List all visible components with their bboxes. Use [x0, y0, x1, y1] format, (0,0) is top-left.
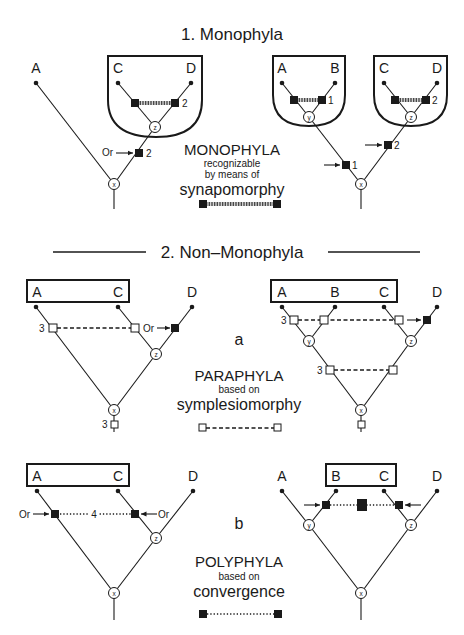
- taxon-label: B: [330, 284, 339, 300]
- taxon-label: A: [277, 284, 287, 300]
- svg-text:z: z: [409, 114, 412, 121]
- legend-title: PARAPHYLA: [195, 367, 284, 384]
- legend-term: synapomorphy: [180, 181, 285, 198]
- character-label: 2: [182, 98, 188, 109]
- taxon-label: D: [187, 284, 197, 300]
- svg-text:z: z: [154, 535, 157, 542]
- svg-text:z: z: [153, 124, 156, 131]
- svg-text:based on: based on: [218, 384, 259, 395]
- character-label: 1: [328, 95, 334, 106]
- subsection-letter: a: [235, 331, 244, 348]
- paraphyla-legend: a PARAPHYLA based on symplesiomorphy: [177, 331, 301, 431]
- taxon-label: D: [188, 468, 198, 484]
- polyphyla-right-tree: A B C D 5 y z x: [277, 464, 442, 620]
- taxon-label: C: [113, 284, 123, 300]
- character-marker: [342, 161, 350, 169]
- or-label: Or: [102, 147, 114, 158]
- subsection-letter: b: [235, 515, 244, 532]
- polyphyla-legend: b POLYPHYLA based on convergence: [193, 515, 285, 618]
- polyphyla-left-tree: A C D 4 Or Or z x: [19, 464, 198, 620]
- character-marker: [135, 149, 143, 157]
- character-label: 2: [394, 140, 400, 151]
- taxon-label: C: [113, 60, 123, 76]
- taxon-label: D: [432, 468, 442, 484]
- legend-title: MONOPHYLA: [184, 141, 280, 158]
- taxon-label: A: [31, 60, 41, 76]
- taxon-label: A: [32, 284, 42, 300]
- character-label: 5: [359, 500, 365, 511]
- taxon-label: D: [432, 284, 442, 300]
- legend-title: POLYPHYLA: [195, 553, 283, 570]
- svg-text:z: z: [154, 351, 157, 358]
- section2-title: 2. Non–Monophyla: [161, 243, 304, 262]
- character-marker: [384, 141, 392, 149]
- taxon-label: A: [277, 468, 287, 484]
- taxon-label: C: [113, 468, 123, 484]
- svg-text:z: z: [409, 338, 412, 345]
- taxon-label: B: [331, 468, 340, 484]
- svg-text:z: z: [409, 522, 412, 529]
- character-label: 3: [102, 419, 108, 430]
- svg-text:based on: based on: [218, 571, 259, 582]
- taxon-label: B: [330, 60, 339, 76]
- phylogeny-diagram: 1. Monophyla A C D 2 2 Or z x A B C D: [0, 0, 464, 635]
- character-label: 3: [317, 365, 323, 376]
- taxon-label: C: [379, 468, 389, 484]
- monophyla-right-tree: A B C D 1 2 1 2 y z x: [273, 56, 447, 209]
- svg-text:recognizable: recognizable: [204, 158, 261, 169]
- taxon-label: D: [186, 60, 196, 76]
- taxon-label: C: [379, 284, 389, 300]
- monophyla-legend: MONOPHYLA recognizable by means of synap…: [180, 141, 285, 208]
- character-label: 4: [91, 509, 97, 520]
- paraphyla-left-tree: A C D 3 Or z x 3: [27, 280, 197, 432]
- or-label: Or: [19, 509, 31, 520]
- taxon-label: D: [432, 60, 442, 76]
- or-label: Or: [158, 509, 170, 520]
- character-label: 3: [39, 323, 45, 334]
- section1-title: 1. Monophyla: [181, 25, 284, 44]
- monophyla-left-tree: A C D 2 2 Or z x: [31, 56, 202, 209]
- legend-term: symplesiomorphy: [177, 396, 301, 413]
- character-label: 2: [432, 95, 438, 106]
- taxon-label: A: [32, 468, 42, 484]
- taxon-label: C: [379, 60, 389, 76]
- taxon-label: A: [277, 60, 287, 76]
- character-label: 2: [146, 148, 152, 159]
- or-label: Or: [143, 323, 155, 334]
- svg-text:by means of: by means of: [205, 169, 260, 180]
- legend-term: convergence: [193, 583, 285, 600]
- character-label: 1: [352, 160, 358, 171]
- character-label: 3: [281, 315, 287, 326]
